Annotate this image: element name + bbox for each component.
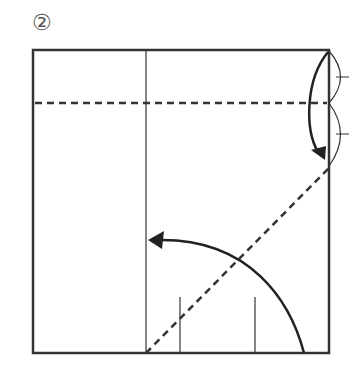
fold-diagram (0, 0, 359, 369)
